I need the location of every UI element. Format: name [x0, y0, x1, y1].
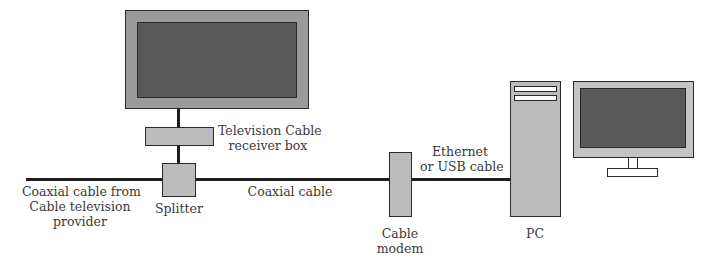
receiver-label-line1: Television Cable — [218, 123, 318, 138]
receiver-label: Television Cable receiver box — [218, 123, 318, 153]
cable-receiver-box — [145, 127, 214, 146]
television — [125, 10, 309, 109]
monitor — [573, 81, 694, 158]
drive-bay-1 — [514, 86, 557, 92]
receiver-label-line2: receiver box — [218, 138, 318, 153]
coaxial-cable-label: Coaxial cable — [245, 184, 335, 199]
monitor-screen — [580, 88, 686, 148]
ethernet-label-line1: Ethernet — [420, 144, 500, 159]
ethernet-cable-label: Ethernet or USB cable — [420, 144, 500, 174]
drive-bay-2 — [514, 95, 557, 101]
provider-cable-label: Coaxial cable from Cable television prov… — [22, 184, 138, 229]
television-screen — [137, 22, 297, 98]
splitter — [162, 163, 196, 197]
cable-modem — [389, 152, 412, 217]
ethernet-label-line2: or USB cable — [420, 159, 500, 174]
splitter-label: Splitter — [150, 201, 208, 216]
monitor-stand-base — [607, 168, 658, 177]
modem-label-line2: modem — [370, 241, 430, 256]
provider-label-line1: Coaxial cable from — [22, 184, 138, 199]
pc-label: PC — [515, 226, 555, 241]
modem-label-line1: Cable — [370, 226, 430, 241]
receiver-splitter-cable — [177, 146, 180, 164]
pc-tower — [510, 81, 561, 217]
provider-label-line3: provider — [22, 214, 138, 229]
tv-receiver-cable — [177, 109, 180, 127]
cable-modem-label: Cable modem — [370, 226, 430, 256]
main-coaxial-line — [26, 178, 510, 181]
provider-label-line2: Cable television — [22, 199, 138, 214]
